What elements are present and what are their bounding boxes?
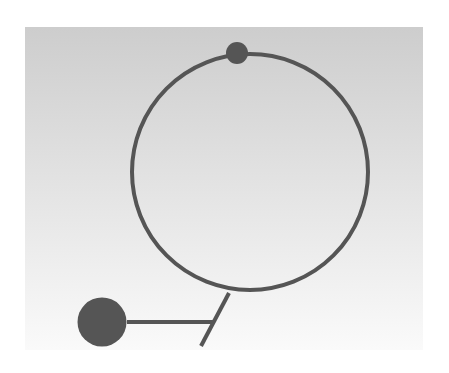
diagram-drawing (0, 0, 449, 373)
base-node-dot (78, 298, 127, 347)
stem-line (201, 293, 229, 346)
diagram-stage (0, 0, 449, 373)
ring-outline (132, 54, 368, 290)
top-node-dot (226, 42, 248, 64)
